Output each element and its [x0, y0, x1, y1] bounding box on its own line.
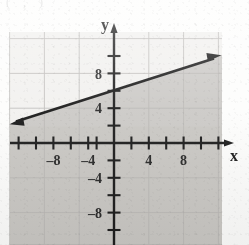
coordinate-plane: –8 –4 4 8 8 4 –4 –8 y x — [0, 0, 249, 245]
coordinate-graph-figure: ( , ) — [0, 0, 249, 245]
scan-tone-overlay — [0, 0, 249, 245]
